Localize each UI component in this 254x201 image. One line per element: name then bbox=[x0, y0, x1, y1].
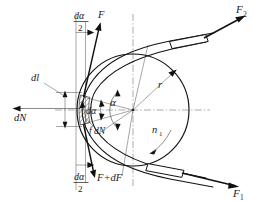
arc-length-label: dl bbox=[31, 72, 39, 83]
d-alpha-arc-arrowhead-top bbox=[99, 100, 105, 107]
half-angle-top-label: dα 2 bbox=[74, 10, 89, 33]
alpha-arc-arrowhead-top bbox=[115, 89, 121, 96]
diagram-canvas: dα 2 F dα 2 F+dF dl dN dα f dN α r n 1 F… bbox=[0, 0, 254, 201]
belt-friction-diagram: dα 2 F dα 2 F+dF dl dN dα f dN α r n 1 F… bbox=[0, 0, 254, 201]
radial-lines bbox=[84, 45, 177, 176]
alpha-arc-arrowhead-bottom bbox=[115, 124, 121, 131]
half-angle-top-numerator: dα bbox=[74, 10, 85, 21]
half-angle-top-arrowhead bbox=[87, 30, 94, 36]
f1-arrow-shaft bbox=[182, 173, 236, 186]
friction-force-label: f dN bbox=[89, 126, 106, 136]
dl-dimension-group bbox=[44, 83, 82, 129]
radius-label: r bbox=[158, 79, 163, 90]
force-f-shaft bbox=[84, 26, 100, 97]
tension-tight-symbol: F bbox=[235, 3, 243, 15]
tension-slack-symbol: F bbox=[232, 187, 240, 199]
half-angle-top-denominator: 2 bbox=[78, 23, 83, 33]
normal-force-label: dN bbox=[14, 112, 27, 123]
tension-slack-label: F 1 bbox=[232, 187, 244, 201]
tension-tight-label: F 2 bbox=[235, 3, 247, 19]
dl-leader-line bbox=[44, 83, 63, 95]
dl-arrowhead-bottom bbox=[63, 122, 68, 129]
belt-end-block-bottom bbox=[146, 164, 184, 178]
force-fdf-label: F+dF bbox=[96, 172, 123, 183]
half-angle-bottom-denominator: 2 bbox=[78, 184, 83, 194]
tension-tight-subscript: 2 bbox=[243, 10, 247, 19]
belt-end-block-top bbox=[170, 35, 209, 49]
rotation-speed-symbol: n bbox=[152, 124, 157, 135]
wrap-angle-label: α bbox=[110, 96, 116, 108]
element-angle-label: dα bbox=[86, 105, 97, 116]
force-f-arrowhead bbox=[95, 22, 101, 31]
half-angle-bottom-numerator: dα bbox=[74, 171, 85, 182]
dl-arrowhead-top bbox=[63, 91, 68, 98]
dn-arrowhead bbox=[13, 106, 21, 112]
tension-slack-subscript: 1 bbox=[240, 193, 244, 201]
force-fdf-arrowhead bbox=[90, 170, 96, 178]
rotation-speed-subscript: 1 bbox=[159, 130, 163, 138]
force-f-label: F bbox=[97, 9, 105, 20]
rotation-arrowhead bbox=[149, 149, 156, 154]
half-angle-bottom-label: dα 2 bbox=[74, 171, 89, 194]
radius-line bbox=[133, 72, 174, 110]
rotation-speed-label: n 1 bbox=[152, 124, 163, 138]
normal-force-arrow-group bbox=[13, 106, 81, 112]
